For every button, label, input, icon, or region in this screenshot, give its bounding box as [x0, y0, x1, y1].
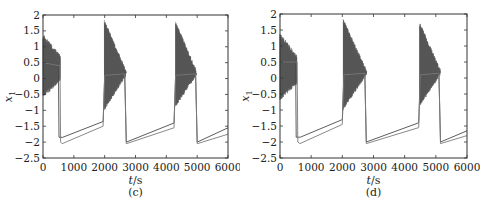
series-line — [280, 62, 467, 144]
x-tick-label: 1000 — [298, 161, 325, 173]
x-tick-label: 0 — [40, 161, 47, 173]
x-tick-label: 3000 — [122, 161, 149, 173]
x-axis: 0100020003000400050006000 — [40, 15, 240, 173]
x-tick-label: 2000 — [329, 161, 356, 173]
chart-d-svg: 010002000300040005000600021.510.50−0.5−1… — [240, 0, 480, 202]
y-tick-label: 0.5 — [23, 56, 40, 68]
y-tick-label: −2.5 — [15, 152, 41, 164]
x-tick-label: 5000 — [184, 161, 211, 173]
oscillation-burst — [176, 22, 197, 106]
axes-frame — [43, 15, 228, 158]
panel-caption: (c) — [128, 186, 143, 199]
y-axis-title: x1 — [2, 91, 17, 102]
x-tick-label: 6000 — [454, 161, 480, 173]
x-tick-label: 4000 — [153, 161, 180, 173]
series-line — [43, 63, 228, 142]
oscillation-burst — [343, 19, 366, 109]
y-tick-label: −2 — [25, 136, 40, 148]
y-tick-label: −0.5 — [252, 88, 278, 100]
x-tick-label: 5000 — [422, 161, 449, 173]
y-tick-label: −1 — [25, 104, 40, 116]
y-tick-label: 0 — [33, 72, 40, 84]
oscillation-burst — [104, 20, 126, 110]
chart-panel-d: 010002000300040005000600021.510.50−0.5−1… — [240, 0, 480, 202]
y-tick-label: −2.5 — [252, 152, 278, 164]
x-axis: 0100020003000400050006000 — [277, 14, 480, 173]
x-tick-label: 1000 — [60, 161, 87, 173]
y-tick-label: 2 — [270, 8, 277, 20]
oscillation-burst — [420, 24, 441, 105]
series-line — [43, 63, 228, 144]
x-tick-label: 2000 — [91, 161, 118, 173]
oscillation-burst — [280, 34, 297, 100]
y-tick-label: −2 — [262, 136, 277, 148]
y-tick-label: −1 — [262, 104, 277, 116]
x-tick-label: 3000 — [360, 161, 387, 173]
y-tick-label: 2 — [33, 9, 40, 21]
y-tick-label: 0 — [270, 72, 277, 84]
y-tick-label: 0.5 — [260, 56, 277, 68]
x-tick-label: 4000 — [391, 161, 418, 173]
plot-area — [43, 20, 228, 144]
y-tick-label: 1 — [33, 40, 40, 52]
chart-c-svg: 010002000300040005000600021.510.50−0.5−1… — [0, 0, 240, 202]
y-tick-label: −1.5 — [15, 120, 41, 132]
y-tick-label: −0.5 — [15, 88, 41, 100]
y-tick-label: 1.5 — [260, 24, 277, 36]
panel-caption: (d) — [366, 186, 382, 199]
x-tick-label: 6000 — [215, 161, 240, 173]
y-tick-label: 1 — [270, 40, 277, 52]
x-tick-label: 0 — [277, 161, 284, 173]
y-axis-title: x1 — [240, 90, 254, 101]
y-tick-label: 1.5 — [23, 24, 40, 36]
plot-area — [280, 19, 467, 143]
chart-panel-c: 010002000300040005000600021.510.50−0.5−1… — [0, 0, 240, 202]
y-tick-label: −1.5 — [252, 120, 278, 132]
